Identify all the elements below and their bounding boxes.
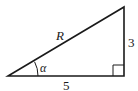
- hypotenuse-label: R: [55, 28, 64, 43]
- right-angle-marker: [113, 65, 124, 76]
- right-triangle-diagram: R 3 5 α: [0, 0, 138, 91]
- angle-label: α: [40, 61, 47, 75]
- angle-arc: [35, 62, 38, 76]
- horizontal-side-label: 5: [63, 78, 70, 91]
- vertical-side-label: 3: [128, 35, 135, 50]
- triangle-outline: [8, 7, 124, 76]
